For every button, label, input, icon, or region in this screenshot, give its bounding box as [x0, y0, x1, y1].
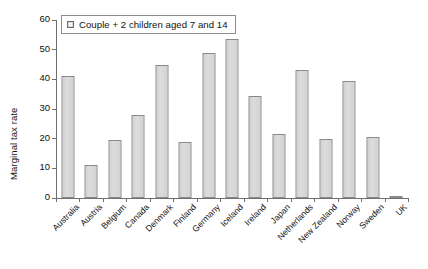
- bar: [155, 65, 168, 199]
- y-tick-label: 10: [26, 161, 50, 172]
- bar-slot: [150, 20, 173, 198]
- y-tick-label: 0: [26, 191, 50, 202]
- bar: [225, 39, 238, 198]
- bar-slot: [385, 20, 408, 198]
- y-axis-title-container: Marginal tax rate: [2, 0, 20, 200]
- y-tick-label: 30: [26, 102, 50, 113]
- y-tick-label: 40: [26, 72, 50, 83]
- bar-slot: [173, 20, 196, 198]
- x-axis-labels: AustraliaAustriaBelgiumCanadaDenmarkFinl…: [56, 202, 408, 268]
- bar: [179, 142, 192, 198]
- bar-series-couple-2-children: [56, 20, 408, 198]
- bar-slot: [197, 20, 220, 198]
- bar-slot: [267, 20, 290, 198]
- bar: [366, 137, 379, 198]
- bar: [272, 134, 285, 198]
- bar-slot: [338, 20, 361, 198]
- bar-slot: [126, 20, 149, 198]
- bar: [85, 165, 98, 198]
- chart-legend: Couple + 2 children aged 7 and 14: [61, 15, 236, 34]
- x-tick-mark: [408, 198, 409, 202]
- bar: [296, 70, 309, 198]
- bar: [319, 139, 332, 198]
- bar-slot: [361, 20, 384, 198]
- marginal-tax-rate-bar-chart: Marginal tax rate 0102030405060 Australi…: [0, 0, 428, 269]
- bar-slot: [103, 20, 126, 198]
- bar: [343, 81, 356, 198]
- y-tick-label: 60: [26, 13, 50, 24]
- x-axis-line: [56, 198, 408, 199]
- bar: [132, 115, 145, 198]
- y-axis-title: Marginal tax rate: [8, 40, 19, 180]
- bar-slot: [79, 20, 102, 198]
- bar: [390, 196, 403, 198]
- bar-slot: [314, 20, 337, 198]
- bar-slot: [56, 20, 79, 198]
- plot-area: 0102030405060: [56, 20, 408, 198]
- bar: [202, 53, 215, 198]
- legend-entry-label: Couple + 2 children aged 7 and 14: [79, 19, 228, 30]
- bar-slot: [244, 20, 267, 198]
- legend-swatch-icon: [67, 21, 74, 28]
- bar-slot: [220, 20, 243, 198]
- y-tick-label: 50: [26, 43, 50, 54]
- bar: [108, 140, 121, 198]
- bar-slot: [291, 20, 314, 198]
- y-tick-label: 20: [26, 132, 50, 143]
- bar: [249, 96, 262, 198]
- bar: [61, 76, 74, 198]
